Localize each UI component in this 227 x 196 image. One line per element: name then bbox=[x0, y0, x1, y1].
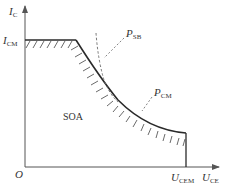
ucem-label: UCEM bbox=[171, 171, 195, 185]
inner-boundary-curve bbox=[76, 42, 186, 140]
y-axis-label: IC bbox=[8, 5, 18, 19]
soa-region-label: SOA bbox=[63, 111, 84, 122]
soa-diagram: IC ICM PSB PCM SOA O UCEM UCE bbox=[0, 0, 227, 196]
x-axis-label: UCE bbox=[202, 171, 219, 185]
pcm-label: PCM bbox=[153, 86, 172, 100]
origin-label: O bbox=[15, 168, 23, 180]
psb-curve bbox=[96, 33, 118, 102]
psb-leader bbox=[104, 38, 124, 58]
icm-label: ICM bbox=[2, 34, 18, 48]
pcm-curve bbox=[76, 40, 186, 133]
pcm-leader bbox=[142, 97, 152, 111]
icm-hatching bbox=[26, 41, 72, 48]
psb-label: PSB bbox=[125, 27, 142, 41]
